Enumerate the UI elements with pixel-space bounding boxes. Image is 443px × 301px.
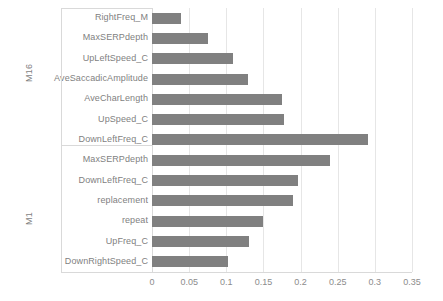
- bar[interactable]: [152, 256, 228, 267]
- x-axis-tick-label: 0.15: [243, 277, 283, 287]
- bar-row: [152, 211, 412, 231]
- bar-chart: M16 M1 RightFreq_MMaxSERPdepthUpLeftSpee…: [0, 0, 443, 301]
- bar-row: [152, 49, 412, 69]
- category-label: UpLeftSpeed_C: [4, 53, 148, 64]
- category-label: UpFreq_C: [4, 236, 148, 247]
- x-axis-tick-label: 0.1: [206, 277, 246, 287]
- x-axis-line: [61, 272, 412, 273]
- bar-row: [152, 191, 412, 211]
- bar-row: [152, 231, 412, 251]
- bar[interactable]: [152, 134, 368, 145]
- bar-row: [152, 8, 412, 28]
- bar-row: [152, 150, 412, 170]
- bar[interactable]: [152, 216, 263, 227]
- bar[interactable]: [152, 114, 284, 125]
- category-label: replacement: [4, 195, 148, 206]
- category-label: DownRightSpeed_C: [4, 256, 148, 267]
- y-axis-tick-top: [61, 8, 152, 9]
- x-axis-tick-label: 0.25: [318, 277, 358, 287]
- bar[interactable]: [152, 74, 248, 85]
- bar[interactable]: [152, 195, 293, 206]
- category-label: repeat: [4, 215, 148, 226]
- category-label: MaxSERPdepth: [4, 32, 148, 43]
- x-axis-tick-label: 0.05: [169, 277, 209, 287]
- group-separator-line: [61, 145, 152, 146]
- bar-row: [152, 28, 412, 48]
- gridline: [412, 8, 413, 272]
- bar-row: [152, 252, 412, 272]
- y-axis-line: [61, 8, 62, 272]
- x-axis-tick-label: 0: [132, 277, 172, 287]
- category-label: DownLeftFreq_C: [4, 175, 148, 186]
- bar[interactable]: [152, 94, 282, 105]
- category-label: DownLeftFreq_C: [4, 134, 148, 145]
- category-label: RightFreq_M: [4, 12, 148, 23]
- bar-row: [152, 170, 412, 190]
- bar-row: [152, 69, 412, 89]
- x-axis-tick-label: 0.2: [281, 277, 321, 287]
- category-label: MaxSERPdepth: [4, 154, 148, 165]
- x-axis-tick-label: 0.3: [355, 277, 395, 287]
- bar[interactable]: [152, 175, 298, 186]
- category-label: AveSaccadicAmplitude: [4, 73, 148, 84]
- category-label: UpSpeed_C: [4, 114, 148, 125]
- bar-row: [152, 110, 412, 130]
- bar[interactable]: [152, 33, 208, 44]
- plot-area: [152, 8, 412, 272]
- x-axis-tick-label: 0.35: [392, 277, 432, 287]
- bar[interactable]: [152, 236, 249, 247]
- bar-row: [152, 130, 412, 150]
- bar[interactable]: [152, 53, 233, 64]
- category-label: AveCharLength: [4, 93, 148, 104]
- bar[interactable]: [152, 13, 181, 24]
- bar-row: [152, 89, 412, 109]
- category-label-column: RightFreq_MMaxSERPdepthUpLeftSpeed_CAveS…: [0, 0, 148, 272]
- bar[interactable]: [152, 155, 330, 166]
